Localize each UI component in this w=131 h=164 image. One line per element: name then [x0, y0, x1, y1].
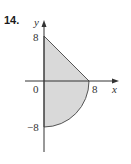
coordinate-plot: y 8 0 8 x −8 [0, 0, 131, 164]
x-axis-label: x [111, 83, 117, 95]
y-tick-label-bottom: −8 [27, 121, 39, 133]
y-axis-label: y [33, 16, 39, 28]
figure-14: 14. y 8 0 8 x −8 [0, 0, 131, 164]
x-tick-label-right: 8 [92, 83, 98, 95]
y-tick-label-top: 8 [33, 31, 39, 43]
origin-label: 0 [33, 83, 39, 95]
y-axis-arrow-icon [42, 20, 47, 27]
